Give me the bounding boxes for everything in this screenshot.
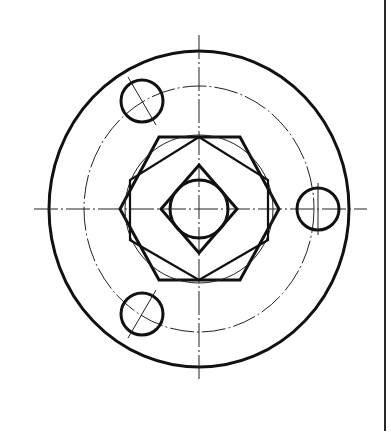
technical-drawing [0,0,391,433]
bolt-hole-lower-left [121,290,163,338]
bolt-hole-upper-left [121,77,163,125]
